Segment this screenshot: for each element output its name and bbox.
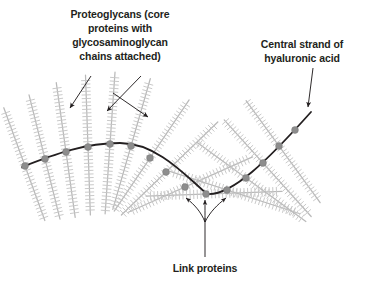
- link-protein-node: [63, 149, 70, 156]
- link-protein-node: [260, 160, 267, 167]
- label-line: Central strand of: [261, 38, 344, 50]
- label-line: Proteoglycans (core: [70, 8, 169, 20]
- link-protein-node: [224, 187, 231, 194]
- link-protein-node: [147, 155, 154, 162]
- diagram-canvas: Proteoglycans (coreproteins withglycosam…: [0, 0, 369, 287]
- link-protein-node: [42, 156, 49, 163]
- proteoglycan-aggregate-diagram: Proteoglycans (coreproteins withglycosam…: [0, 0, 369, 287]
- label-line: proteins with: [88, 22, 152, 34]
- link-protein-node: [128, 143, 135, 150]
- label-link-proteins: Link proteins: [173, 262, 238, 274]
- link-protein-node: [243, 175, 250, 182]
- label-line: glycosaminoglycan: [72, 36, 168, 48]
- link-protein-node: [276, 143, 283, 150]
- label-line: hyaluronic acid: [264, 52, 340, 64]
- link-protein-node: [22, 163, 29, 170]
- link-protein-node: [107, 141, 114, 148]
- link-protein-node: [292, 127, 299, 134]
- link-protein-node: [163, 169, 170, 176]
- label-line: chains attached): [79, 50, 160, 62]
- link-protein-node: [85, 144, 92, 151]
- label-line: Link proteins: [173, 262, 238, 274]
- link-protein-node: [203, 191, 210, 198]
- link-protein-node: [182, 184, 189, 191]
